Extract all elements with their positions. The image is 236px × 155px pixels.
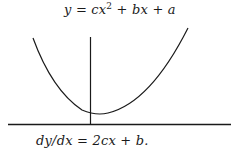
- parabola-curve: [33, 28, 188, 114]
- parabola-graph: [0, 0, 236, 155]
- derivative-equation: dy/dx = 2cx + b.: [36, 133, 149, 148]
